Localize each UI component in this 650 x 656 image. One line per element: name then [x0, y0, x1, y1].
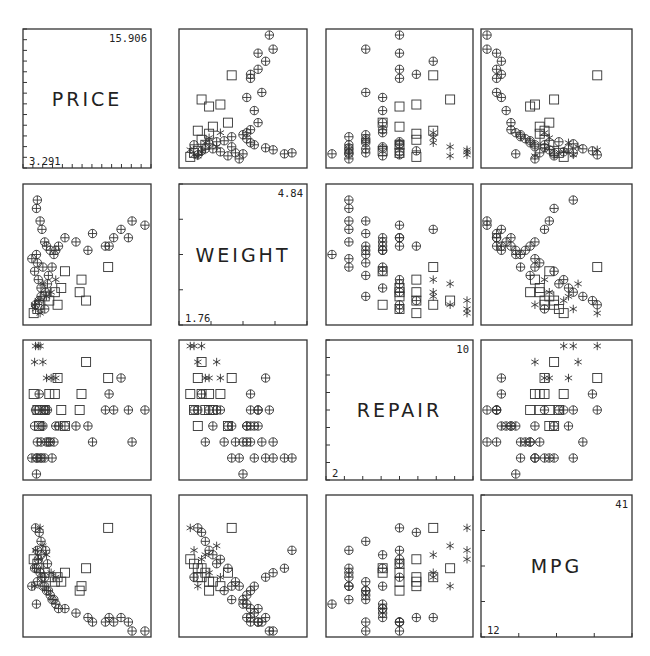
- circle-plus-marker: [531, 143, 539, 151]
- variable-name-label: WEIGHT: [195, 244, 290, 266]
- circle-plus-marker: [526, 438, 534, 446]
- scatter-panel-mpg-vs-repair: [326, 495, 473, 637]
- variable-name-label: REPAIR: [357, 399, 442, 421]
- circle-plus-marker: [128, 627, 136, 635]
- circle-plus-marker: [362, 217, 370, 225]
- circle-plus-marker: [569, 406, 577, 414]
- circle-plus-marker: [531, 263, 539, 271]
- circle-plus-marker: [395, 151, 403, 159]
- circle-plus-marker: [246, 125, 254, 133]
- circle-plus-marker: [395, 221, 403, 229]
- circle-plus-marker: [378, 106, 386, 114]
- circle-plus-marker: [61, 234, 69, 242]
- circle-plus-marker: [31, 524, 39, 532]
- circle-plus-marker: [531, 454, 539, 462]
- circle-plus-marker: [288, 546, 296, 554]
- scatterplot-matrix: PRICE15.9063.291WEIGHT4.841.76REPAIR102M…: [0, 0, 650, 656]
- diagonal-panel-repair: REPAIR102: [326, 340, 473, 480]
- circle-plus-marker: [412, 242, 420, 250]
- circle-plus-marker: [483, 31, 491, 39]
- circle-plus-marker: [32, 470, 40, 478]
- circle-plus-marker: [235, 454, 243, 462]
- circle-plus-marker: [362, 137, 370, 145]
- circle-plus-marker: [105, 613, 113, 621]
- circle-plus-marker: [38, 225, 46, 233]
- circle-plus-marker: [117, 225, 125, 233]
- circle-plus-marker: [205, 546, 213, 554]
- circle-plus-marker: [209, 422, 217, 430]
- circle-plus-marker: [269, 438, 277, 446]
- circle-plus-marker: [109, 406, 117, 414]
- circle-plus-marker: [231, 149, 239, 157]
- circle-plus-marker: [235, 582, 243, 590]
- circle-plus-marker: [345, 217, 353, 225]
- circle-plus-marker: [48, 263, 56, 271]
- circle-plus-marker: [593, 406, 601, 414]
- circle-plus-marker: [362, 271, 370, 279]
- variable-min-label: 3.291: [29, 155, 61, 167]
- circle-plus-marker: [345, 573, 353, 581]
- scatter-panel-price-vs-weight: [179, 29, 307, 168]
- circle-plus-marker: [429, 225, 437, 233]
- circle-plus-marker: [536, 149, 544, 157]
- circle-plus-marker: [37, 438, 45, 446]
- circle-plus-marker: [246, 613, 254, 621]
- circle-plus-marker: [32, 600, 40, 608]
- circle-plus-marker: [328, 600, 336, 608]
- circle-plus-marker: [33, 259, 41, 267]
- scatter-panel-repair-vs-weight: [179, 340, 307, 480]
- circle-plus-marker: [345, 155, 353, 163]
- circle-plus-marker: [512, 250, 520, 258]
- circle-plus-marker: [536, 438, 544, 446]
- circle-plus-marker: [44, 271, 52, 279]
- circle-plus-marker: [497, 242, 505, 250]
- circle-plus-marker: [569, 454, 577, 462]
- circle-plus-marker: [362, 586, 370, 594]
- circle-plus-marker: [258, 88, 266, 96]
- circle-plus-marker: [378, 613, 386, 621]
- diagonal-panel-mpg: MPG4112: [481, 495, 632, 637]
- circle-plus-marker: [345, 546, 353, 554]
- circle-plus-marker: [141, 627, 149, 635]
- circle-plus-marker: [555, 280, 563, 288]
- circle-plus-marker: [124, 618, 132, 626]
- circle-plus-marker: [395, 524, 403, 532]
- variable-name-label: PRICE: [52, 88, 123, 110]
- circle-plus-marker: [362, 88, 370, 96]
- circle-plus-marker: [72, 238, 80, 246]
- variable-min-label: 1.76: [185, 312, 210, 324]
- circle-plus-marker: [362, 145, 370, 153]
- circle-plus-marker: [265, 406, 273, 414]
- circle-plus-marker: [239, 470, 247, 478]
- circle-plus-marker: [362, 595, 370, 603]
- circle-plus-marker: [101, 406, 109, 414]
- circle-plus-marker: [345, 204, 353, 212]
- circle-plus-marker: [212, 560, 220, 568]
- circle-plus-marker: [395, 627, 403, 635]
- circle-plus-marker: [201, 537, 209, 545]
- circle-plus-marker: [345, 141, 353, 149]
- panel-frame: [481, 29, 632, 168]
- circle-plus-marker: [105, 390, 113, 398]
- circle-plus-marker: [497, 422, 505, 430]
- circle-plus-marker: [593, 301, 601, 309]
- circle-plus-marker: [345, 263, 353, 271]
- circle-plus-marker: [540, 454, 548, 462]
- circle-plus-marker: [201, 438, 209, 446]
- circle-plus-marker: [378, 551, 386, 559]
- circle-plus-marker: [483, 45, 491, 53]
- circle-plus-marker: [569, 196, 577, 204]
- circle-plus-marker: [243, 93, 251, 101]
- circle-plus-marker: [48, 595, 56, 603]
- circle-plus-marker: [194, 524, 202, 532]
- circle-plus-marker: [545, 217, 553, 225]
- circle-plus-marker: [246, 390, 254, 398]
- circle-plus-marker: [128, 438, 136, 446]
- scatter-panel-mpg-vs-price: [23, 495, 151, 637]
- variable-max-label: 10: [456, 343, 469, 355]
- circle-plus-marker: [228, 422, 236, 430]
- circle-plus-marker: [483, 406, 491, 414]
- scatter-panel-weight-vs-mpg: [481, 184, 632, 325]
- circle-plus-marker: [516, 263, 524, 271]
- diagonal-panel-weight: WEIGHT4.841.76: [179, 184, 307, 325]
